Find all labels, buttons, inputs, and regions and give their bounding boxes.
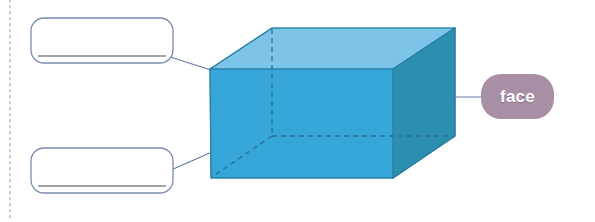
leader-line-top bbox=[170, 57, 211, 70]
face-label[interactable]: face bbox=[481, 74, 554, 119]
cuboid-front-face bbox=[210, 69, 393, 178]
worksheet-canvas: face bbox=[0, 0, 595, 222]
answer-box-top-text bbox=[36, 22, 169, 52]
answer-box-bottom-text bbox=[36, 152, 169, 182]
leader-line-bottom bbox=[171, 152, 212, 170]
face-label-text: face bbox=[500, 87, 535, 107]
cuboid-shape bbox=[210, 28, 455, 178]
